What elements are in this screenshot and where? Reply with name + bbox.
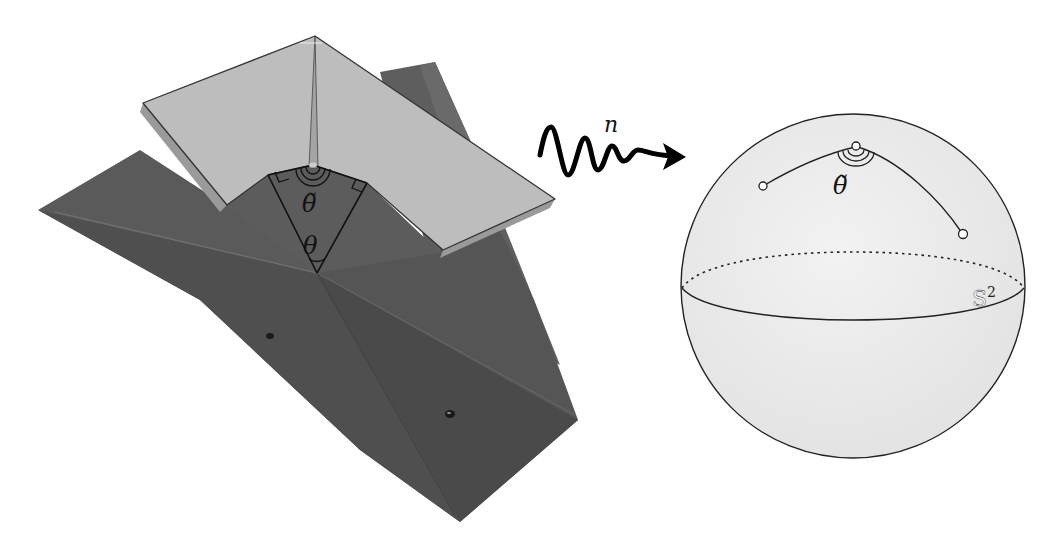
figure: θ̃ θ n θ̃ S2 [0,0,1050,545]
hole-2-highlight [447,412,451,414]
vertex-point-top [852,142,860,150]
theta-label: θ [303,232,318,260]
hole-2 [445,410,455,418]
theta-tilde-label-sphere: θ̃ [833,172,848,200]
endpoint-left [759,182,767,190]
folded-structure: θ̃ θ [38,36,578,522]
sphere-label-sup: 2 [987,284,996,300]
theta-tilde-label-left: θ̃ [302,190,317,218]
sphere-label-base: S [972,286,987,311]
sphere-diagram: θ̃ S2 [681,114,1025,458]
hole-1 [266,333,274,339]
endpoint-right [959,230,968,239]
map-n-label: n [604,112,618,137]
wavy-arrow: n [540,112,686,175]
